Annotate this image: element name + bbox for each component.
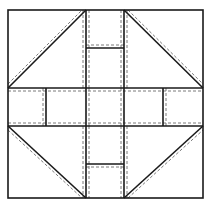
seam-diag-top-left (8, 10, 82, 84)
block-border (8, 10, 203, 198)
top-right-diagonal (124, 10, 203, 88)
quilt-block-diagram (0, 0, 211, 209)
seam-diag-bottom-left (8, 130, 82, 198)
top-left-diagonal (8, 10, 86, 88)
seam-diag-bottom-right (128, 130, 203, 198)
seam-diag-top-right (128, 10, 203, 84)
cut-lines (8, 10, 203, 198)
bottom-right-diagonal (124, 126, 203, 198)
seam-allowance-lines (8, 10, 203, 198)
bottom-left-diagonal (8, 126, 86, 198)
